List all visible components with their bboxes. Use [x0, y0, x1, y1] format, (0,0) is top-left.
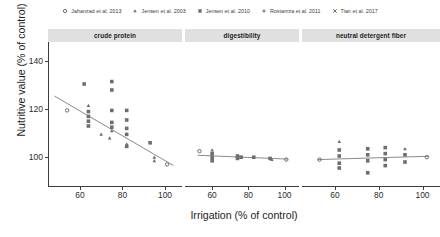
legend-item-label: Jensen et al. 2010 — [206, 8, 250, 14]
x-tick-mark — [423, 186, 424, 190]
x-tick-mark — [248, 186, 249, 190]
legend-item-label: Jahanzad et al. 2013 — [71, 8, 121, 14]
cross-marker-icon — [332, 8, 338, 14]
facet-label: neutral detergent fiber — [336, 32, 406, 39]
x-tick-mark — [285, 186, 286, 190]
chart-figure: Jahanzad et al. 2013 Jensen et al. 2003 … — [0, 0, 440, 237]
x-tick-label: 60 — [200, 190, 224, 200]
square-marker-icon — [197, 8, 203, 14]
x-axis-title: Irrigation (% of control) — [48, 209, 440, 221]
facet-label: crude protein — [94, 32, 136, 39]
legend-item-1: Jensen et al. 2003 — [132, 8, 185, 14]
plot-panel-digestibility — [185, 42, 299, 186]
legend-item-label: Jensen et al. 2003 — [141, 8, 185, 14]
x-tick-label: 60 — [323, 190, 347, 200]
y-tick-label: 100 — [3, 152, 43, 162]
triangle-marker-icon — [132, 8, 138, 14]
x-tick-label: 80 — [110, 190, 134, 200]
legend-item-2: Jensen et al. 2010 — [197, 8, 250, 14]
plot-panel-crude-protein — [48, 42, 182, 186]
chart-legend: Jahanzad et al. 2013 Jensen et al. 2003 … — [0, 4, 440, 17]
x-tick-mark — [165, 186, 166, 190]
legend-item-0: Jahanzad et al. 2013 — [62, 8, 121, 14]
x-tick-label: 60 — [68, 190, 92, 200]
x-tick-label: 80 — [367, 190, 391, 200]
legend-item-label: Tian et al. 2017 — [341, 8, 378, 14]
y-tick-mark — [45, 157, 49, 158]
x-tick-label: 80 — [236, 190, 260, 200]
x-tick-mark — [80, 186, 81, 190]
x-tick-mark — [379, 186, 380, 190]
x-axis-line — [302, 186, 440, 187]
facet-strip-digestibility: digestibility — [185, 29, 299, 42]
y-tick-mark — [45, 61, 49, 62]
x-tick-label: 100 — [273, 190, 297, 200]
plus-marker-icon — [261, 8, 267, 14]
x-tick-label: 100 — [411, 190, 435, 200]
y-axis-title: Nutritive value (% of control) — [15, 0, 27, 145]
y-axis-line — [48, 42, 49, 186]
facet-strip-crude-protein: crude protein — [48, 29, 182, 42]
legend-item-3: Rostamza et al. 2011 — [261, 8, 321, 14]
x-tick-label: 100 — [153, 190, 177, 200]
x-tick-mark — [122, 186, 123, 190]
legend-item-label: Rostamza et al. 2011 — [270, 8, 321, 14]
facet-label: digestibility — [224, 32, 261, 39]
x-tick-mark — [212, 186, 213, 190]
legend-item-4: Tian et al. 2017 — [332, 8, 378, 14]
x-axis-line — [185, 186, 299, 187]
y-tick-mark — [45, 109, 49, 110]
x-axis-line — [48, 186, 182, 187]
circle-marker-icon — [62, 8, 68, 14]
facet-strip-neutral-detergent-fiber: neutral detergent fiber — [302, 29, 440, 42]
x-tick-mark — [335, 186, 336, 190]
plot-panel-neutral-detergent-fiber — [302, 42, 440, 186]
